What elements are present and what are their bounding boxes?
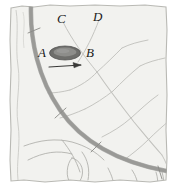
label-b: B [86, 46, 94, 59]
ellipse-highlight [57, 49, 70, 53]
figure-container: A B C D [0, 0, 177, 196]
label-a: A [38, 46, 46, 59]
label-d: D [93, 10, 102, 23]
diagram-canvas [0, 0, 177, 196]
label-c: C [57, 12, 66, 25]
shaded-ellipse [50, 46, 81, 60]
